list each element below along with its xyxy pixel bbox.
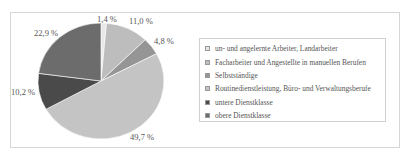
legend-label: un- und angelernte Arbeiter, Landarbeite… — [215, 44, 338, 53]
legend-item-untere-dienstklasse: untere Dienstklasse — [205, 96, 385, 109]
legend-swatch — [205, 60, 210, 65]
legend-label: Routinedienstleistung, Büro- und Verwalt… — [215, 84, 371, 93]
pie-slices — [38, 23, 164, 139]
legend-swatch — [205, 46, 210, 51]
legend-item-un-angelernte: un- und angelernte Arbeiter, Landarbeite… — [205, 42, 385, 55]
legend-item-routinedienstleistung: Routinedienstleistung, Büro- und Verwalt… — [205, 82, 385, 95]
legend-label: Facharbeiter und Angestellte in manuelle… — [215, 58, 366, 67]
chart-legend: un- und angelernte Arbeiter, Landarbeite… — [199, 38, 386, 122]
legend-swatch — [205, 73, 210, 78]
slice-label-untere-dienstklasse: 10,2 % — [11, 87, 35, 97]
slice-label-routinedienstleistung: 49,7 % — [130, 132, 154, 142]
slice-label-facharbeiter: 11,0 % — [129, 16, 153, 26]
legend-item-selbststaendige: Selbstständige — [205, 69, 385, 82]
slice-label-obere-dienstklasse: 22,9 % — [34, 28, 58, 38]
legend-swatch — [205, 113, 210, 118]
legend-item-obere-dienstklasse: obere Dienstklasse — [205, 109, 385, 122]
legend-label: obere Dienstklasse — [215, 111, 271, 120]
legend-swatch — [205, 86, 210, 91]
slice-label-un-angelernte: 1,4 % — [97, 14, 117, 24]
legend-item-facharbeiter: Facharbeiter und Angestellte in manuelle… — [205, 55, 385, 68]
legend-swatch — [205, 100, 210, 105]
slice-label-selbststaendige: 4,8 % — [154, 36, 174, 46]
legend-label: untere Dienstklasse — [215, 98, 273, 107]
legend-label: Selbstständige — [215, 71, 258, 80]
